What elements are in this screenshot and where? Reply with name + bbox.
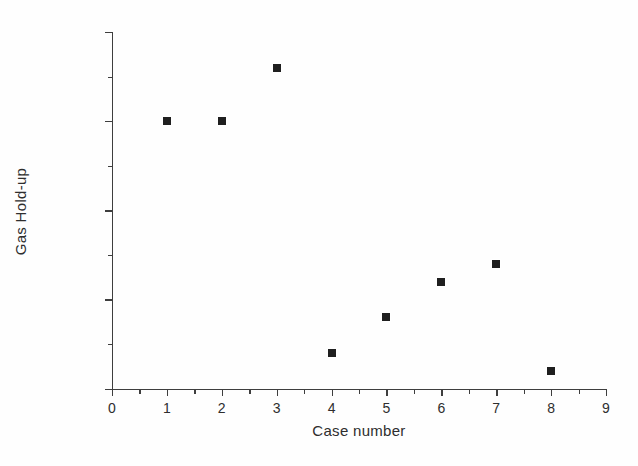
- x-axis-major-tick: [551, 389, 552, 396]
- x-axis-tick-label: 9: [602, 400, 610, 416]
- y-axis-major-tick: [105, 299, 112, 300]
- x-axis-minor-tick: [304, 389, 305, 394]
- y-axis-major-tick: [105, 389, 112, 390]
- y-axis-minor-tick: [108, 166, 113, 167]
- y-axis-title: Gas Hold-up: [11, 32, 31, 390]
- x-axis-tick-label: 0: [108, 400, 116, 416]
- x-axis-minor-tick: [139, 389, 140, 394]
- x-axis-major-tick: [112, 389, 113, 396]
- x-axis-minor-tick: [359, 389, 360, 394]
- x-axis-tick-label: 6: [437, 400, 445, 416]
- plot-area: 0.00500.00550.00600.00650.0070 012345678…: [112, 32, 606, 390]
- data-point: [163, 117, 171, 125]
- y-axis-major-tick: [105, 210, 112, 211]
- scatter-plot-figure: 0.00500.00550.00600.00650.0070 012345678…: [0, 0, 638, 466]
- x-axis-tick-label: 3: [273, 400, 281, 416]
- x-axis-major-tick: [222, 389, 223, 396]
- x-axis-tick-label: 2: [218, 400, 226, 416]
- x-axis-major-tick: [386, 389, 387, 396]
- y-axis-title-text: Gas Hold-up: [13, 167, 30, 255]
- data-point: [492, 260, 500, 268]
- x-axis-major-tick: [332, 389, 333, 396]
- data-point: [328, 349, 336, 357]
- data-point: [547, 367, 555, 375]
- y-axis-minor-tick: [108, 255, 113, 256]
- x-axis-major-tick: [167, 389, 168, 396]
- x-axis-major-tick: [496, 389, 497, 396]
- x-axis-tick-label: 7: [492, 400, 500, 416]
- x-axis-tick-label: 5: [383, 400, 391, 416]
- x-axis-minor-tick: [469, 389, 470, 394]
- x-axis-major-tick: [277, 389, 278, 396]
- x-axis-title: Case number: [112, 422, 606, 439]
- x-axis-tick-label: 1: [163, 400, 171, 416]
- data-point: [382, 313, 390, 321]
- y-axis-line: [112, 32, 113, 390]
- y-axis-major-tick: [105, 121, 112, 122]
- x-axis-major-tick: [606, 389, 607, 396]
- data-point: [437, 278, 445, 286]
- x-axis-minor-tick: [524, 389, 525, 394]
- x-axis-major-tick: [441, 389, 442, 396]
- y-axis-minor-tick: [108, 77, 113, 78]
- y-axis-minor-tick: [108, 344, 113, 345]
- x-axis-minor-tick: [249, 389, 250, 394]
- x-axis-minor-tick: [579, 389, 580, 394]
- x-axis-minor-tick: [194, 389, 195, 394]
- y-axis-major-tick: [105, 32, 112, 33]
- data-point: [273, 64, 281, 72]
- x-axis-minor-tick: [414, 389, 415, 394]
- x-axis-tick-label: 4: [328, 400, 336, 416]
- x-axis-tick-label: 8: [547, 400, 555, 416]
- data-point: [218, 117, 226, 125]
